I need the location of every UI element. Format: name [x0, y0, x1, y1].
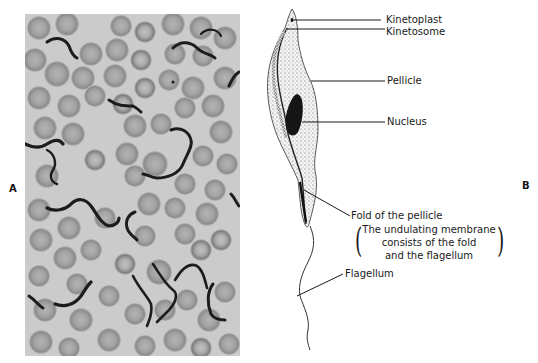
note-line-1: The undulating membrane — [359, 223, 499, 236]
label-kinetosome: Kinetosome — [386, 26, 445, 38]
kinetoplast-dot — [291, 18, 294, 22]
trypanosome-diagram — [0, 0, 538, 363]
label-flagellum: Flagellum — [345, 268, 394, 280]
flagellum-line — [299, 226, 313, 350]
label-kinetoplast: Kinetoplast — [386, 14, 442, 26]
label-pellicle: Pellicle — [387, 75, 422, 87]
undulating-membrane-note: The undulating membrane consists of the … — [359, 223, 499, 262]
label-fold-of-pellicle: Fold of the pellicle — [351, 210, 443, 222]
note-line-2: consists of the fold — [359, 236, 499, 249]
kinetosome-dot — [286, 28, 288, 30]
note-line-3: and the flagellum — [359, 249, 499, 262]
label-nucleus: Nucleus — [387, 116, 427, 128]
right-parenthesis: ) — [497, 220, 504, 260]
